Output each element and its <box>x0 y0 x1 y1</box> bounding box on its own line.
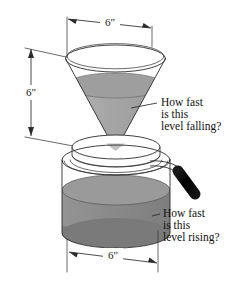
dim-arrow-right <box>142 23 151 28</box>
upper-callout-line3: level falling? <box>161 120 221 133</box>
lower-callout-line2: is this <box>163 219 191 231</box>
lower-callout-line3: level rising? <box>163 231 220 244</box>
upper-callout-line2: is this <box>161 108 189 120</box>
handle-grip-bar <box>178 171 195 194</box>
cone-diameter-label: 6" <box>105 16 115 28</box>
lower-callout: How fast is this level rising? <box>152 207 220 244</box>
handle-grip <box>178 171 195 194</box>
related-rates-figure: 6" 6" <box>0 0 234 283</box>
cone-rim-inner <box>67 44 164 69</box>
height-arrow-up <box>28 49 34 58</box>
upper-callout-line1: How fast <box>161 96 204 108</box>
height-arrow-down <box>28 127 34 136</box>
cone-height-label: 6" <box>26 86 36 98</box>
pot-lid <box>70 135 162 172</box>
pot-liquid <box>62 175 170 248</box>
figure-canvas: 6" 6" <box>0 0 234 283</box>
cone-diameter-dimension: 6" <box>67 15 152 57</box>
lower-callout-line1: How fast <box>163 207 206 219</box>
pot-liquid-surface <box>62 175 170 205</box>
dim-arrow-left <box>68 19 77 24</box>
cone-rim-outer <box>66 45 166 72</box>
upper-callout: How fast is this level falling? <box>131 96 221 133</box>
pot-diameter-label: 6" <box>108 249 118 261</box>
